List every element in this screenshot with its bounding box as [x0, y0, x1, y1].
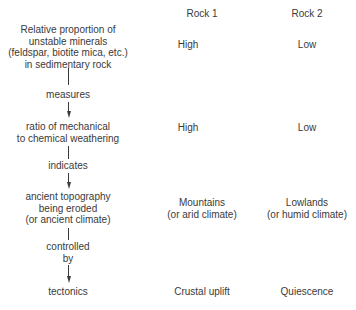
rock-2-tectonics-value: Quiescence: [281, 286, 334, 298]
link-label-line: controlled: [46, 241, 89, 253]
arrow-down-icon: [67, 182, 71, 189]
rock-1-weathering-value: High: [178, 122, 199, 134]
node-text-line: ratio of mechanical: [17, 121, 119, 133]
connector-line: [68, 228, 69, 240]
node-text-line: unstable minerals: [8, 36, 128, 48]
node-text-line: being eroded: [25, 203, 110, 215]
node-text-line: ancient topography: [25, 191, 110, 203]
node-ancient-topography: ancient topography being eroded (or anci…: [25, 191, 110, 226]
node-tectonics: tectonics: [48, 286, 87, 298]
value-line: Mountains: [167, 197, 236, 209]
rock-2-header: Rock 2: [291, 8, 322, 20]
rock-2-topography-value: Lowlands (or humid climate): [267, 197, 347, 220]
rock-1-tectonics-value: Crustal uplift: [174, 286, 230, 298]
rock-1-header: Rock 1: [186, 8, 217, 20]
node-text-line: to chemical weathering: [17, 133, 119, 145]
rock-2-minerals-value: Low: [298, 39, 316, 51]
connector-line: [68, 68, 69, 85]
rock-1-topography-value: Mountains (or arid climate): [167, 197, 236, 220]
arrow-down-icon: [67, 276, 71, 283]
node-text-line: Relative proportion of: [8, 24, 128, 36]
rock-2-weathering-value: Low: [298, 122, 316, 134]
node-weathering-ratio: ratio of mechanical to chemical weatheri…: [17, 121, 119, 144]
node-text-line: (or ancient climate): [25, 214, 110, 226]
value-line: Lowlands: [267, 197, 347, 209]
link-label-indicates: indicates: [48, 160, 87, 172]
node-unstable-minerals: Relative proportion of unstable minerals…: [8, 24, 128, 70]
rock-1-minerals-value: High: [178, 39, 199, 51]
connector-line: [68, 146, 69, 159]
link-label-line: by: [46, 253, 89, 265]
link-label-measures: measures: [46, 89, 90, 101]
node-text-line: (feldspar, biotite mica, etc.): [8, 47, 128, 59]
value-line: (or arid climate): [167, 209, 236, 221]
value-line: (or humid climate): [267, 209, 347, 221]
arrow-down-icon: [67, 111, 71, 118]
link-label-controlled-by: controlled by: [46, 241, 89, 264]
